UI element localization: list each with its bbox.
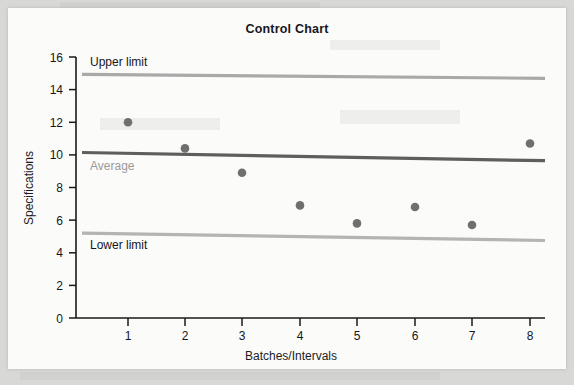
x-tick-label-1: 1 [125, 329, 132, 343]
x-tick-label-8: 8 [527, 329, 534, 343]
x-tick-label-7: 7 [469, 329, 476, 343]
y-tick-label-14: 14 [50, 83, 64, 97]
lower-limit-line [82, 233, 545, 240]
lower-limit-label: Lower limit [90, 238, 148, 252]
y-tick-label-8: 8 [56, 181, 63, 195]
x-tick-label-6: 6 [412, 329, 419, 343]
y-axis-ticks [69, 57, 76, 318]
data-point-series [124, 118, 535, 229]
y-tick-label-6: 6 [56, 214, 63, 228]
upper-limit-line [82, 74, 545, 78]
y-tick-label-2: 2 [56, 279, 63, 293]
upper-limit-label: Upper limit [90, 55, 148, 69]
data-point-1 [124, 118, 133, 127]
y-tick-label-4: 4 [56, 246, 63, 260]
data-point-2 [181, 144, 190, 153]
x-tick-label-4: 4 [297, 329, 304, 343]
y-axis-title: Specifications [22, 151, 36, 225]
data-point-5 [353, 219, 362, 228]
y-tick-label-12: 12 [50, 116, 64, 130]
average-label: Average [90, 159, 135, 173]
data-point-3 [238, 169, 247, 178]
x-tick-label-2: 2 [182, 329, 189, 343]
average-line [82, 153, 545, 161]
data-point-6 [411, 203, 420, 212]
y-tick-label-0: 0 [56, 312, 63, 326]
x-tick-label-5: 5 [354, 329, 361, 343]
data-point-8 [526, 139, 535, 148]
x-axis-title: Batches/Intervals [245, 349, 337, 363]
data-point-7 [468, 221, 477, 230]
y-tick-label-16: 16 [50, 51, 64, 65]
control-chart-figure: Control Chart 16 14 12 10 [0, 0, 574, 385]
y-tick-label-10: 10 [50, 148, 64, 162]
data-point-4 [296, 201, 305, 210]
chart-plot-area: 16 14 12 10 8 6 4 2 0 1 2 3 [0, 0, 574, 385]
page-background: Control Chart 16 14 12 10 [0, 0, 574, 385]
x-axis-ticks [128, 318, 530, 326]
x-tick-label-3: 3 [239, 329, 246, 343]
